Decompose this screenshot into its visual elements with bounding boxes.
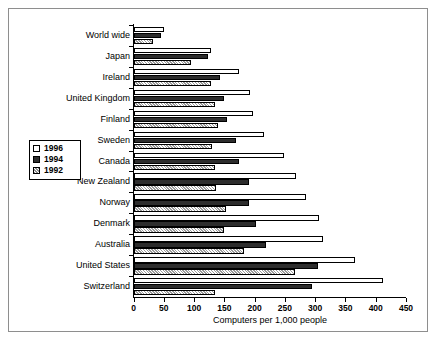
x-tick-label: 250 [270,303,300,313]
x-tick [406,298,407,302]
bar [134,81,212,86]
plot-area: 050100150200250300350400450 World wideJa… [0,0,442,351]
bar [134,75,221,80]
bar [134,60,192,65]
legend-label: 1992 [44,166,63,175]
category-label: Finland [10,114,130,124]
bar [134,290,216,295]
bar [134,117,228,122]
legend-label: 1996 [44,144,63,153]
legend: 199619941992 [29,140,81,180]
bar [134,123,219,128]
bar [134,200,249,205]
x-tick [224,298,225,302]
bar [134,278,383,283]
legend-swatch-icon [33,167,40,174]
bar [134,39,154,44]
x-tick-label: 50 [149,303,179,313]
category-label: Norway [10,197,130,207]
x-axis-line [133,297,406,298]
bar [134,269,296,274]
bar [134,179,249,184]
bar [134,27,164,32]
bar [134,132,264,137]
x-tick [194,298,195,302]
bar [134,215,320,220]
x-tick-label: 300 [300,303,330,313]
bar [134,54,208,59]
bar [134,111,253,116]
x-tick-label: 400 [361,303,391,313]
bar [134,257,355,262]
category-label: Australia [10,239,130,249]
bar [134,159,240,164]
bar [134,227,225,232]
bar [134,284,313,289]
x-tick-label: 150 [209,303,239,313]
category-label: Ireland [10,72,130,82]
legend-label: 1994 [44,155,63,164]
bar [134,242,266,247]
x-tick-label: 350 [330,303,360,313]
bar [134,138,237,143]
category-label: World wide [10,30,130,40]
x-tick [315,298,316,302]
bar [134,69,240,74]
bar [134,33,161,38]
x-tick [255,298,256,302]
bar [134,173,296,178]
x-tick [164,298,165,302]
legend-item: 1994 [33,154,77,165]
category-label: Denmark [10,218,130,228]
x-axis-title: Computers per 1,000 people [133,315,407,325]
bar [134,248,244,253]
legend-item: 1992 [33,165,77,176]
bar [134,263,319,268]
bar [134,96,225,101]
bar [134,194,307,199]
x-tick [285,298,286,302]
bar [134,206,227,211]
bar [134,236,324,241]
legend-swatch-icon [33,156,40,163]
bar [134,185,217,190]
bar [134,90,251,95]
bar [134,144,213,149]
x-tick [134,298,135,302]
x-tick [345,298,346,302]
legend-swatch-icon [33,145,40,152]
category-label: United States [10,260,130,270]
bar [134,153,284,158]
bar [134,165,216,170]
x-tick-label: 450 [391,303,421,313]
x-tick-label: 200 [240,303,270,313]
bar [134,221,257,226]
x-tick [376,298,377,302]
x-tick-label: 100 [179,303,209,313]
legend-item: 1996 [33,143,77,154]
category-label: Switzerland [10,281,130,291]
bar [134,48,212,53]
bar [134,102,216,107]
category-label: United Kingdom [10,93,130,103]
category-label: Japan [10,51,130,61]
